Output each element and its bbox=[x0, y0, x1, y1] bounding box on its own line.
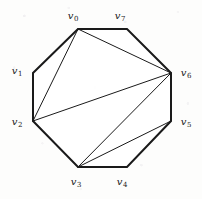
vertex-label-v6: v6 bbox=[181, 68, 192, 78]
octagon-diagram bbox=[0, 0, 202, 199]
vertex-label-v3: v3 bbox=[71, 177, 82, 187]
vertex-label-v4: v4 bbox=[117, 177, 128, 187]
vertex-label-v1: v1 bbox=[12, 66, 23, 76]
vertex-label-v0: v0 bbox=[68, 11, 79, 21]
octagon-figure: v0 v7 v1 v2 v6 v5 v3 v4 bbox=[0, 0, 202, 199]
vertex-label-v5: v5 bbox=[181, 117, 192, 127]
vertex-label-v2: v2 bbox=[12, 117, 23, 127]
octagon-outline bbox=[33, 29, 171, 167]
vertex-label-v7: v7 bbox=[115, 11, 126, 21]
